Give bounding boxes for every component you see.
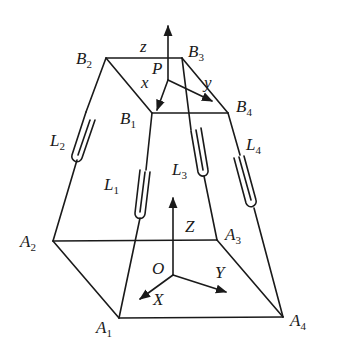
label-A4: A4 xyxy=(289,311,306,332)
mechanism-diagram: B2 B3 B1 B4 z P x y L2 L1 L3 L4 A2 A3 A1… xyxy=(0,0,338,355)
label-L2: L2 xyxy=(49,131,65,152)
label-O: O xyxy=(152,259,164,278)
label-B4: B4 xyxy=(236,97,252,118)
leg-L3 xyxy=(182,58,217,240)
label-B2: B2 xyxy=(76,49,92,70)
label-z: z xyxy=(139,37,147,56)
label-L3: L3 xyxy=(171,160,187,181)
base-axes xyxy=(140,198,226,299)
label-A2: A2 xyxy=(19,232,36,253)
label-Y: Y xyxy=(215,263,226,282)
x-axis-arrow-icon xyxy=(157,80,168,110)
label-A1: A1 xyxy=(95,318,112,339)
label-L1: L1 xyxy=(103,175,119,196)
label-B1: B1 xyxy=(120,109,136,130)
label-y: y xyxy=(202,73,212,92)
label-A3: A3 xyxy=(224,225,241,246)
platform-axes xyxy=(157,26,212,110)
label-B3: B3 xyxy=(188,42,204,63)
label-Z: Z xyxy=(185,217,195,236)
label-P: P xyxy=(151,59,162,78)
label-X: X xyxy=(152,290,164,309)
leg-L1 xyxy=(119,113,152,318)
label-L4: L4 xyxy=(245,135,261,156)
label-x: x xyxy=(140,73,149,92)
